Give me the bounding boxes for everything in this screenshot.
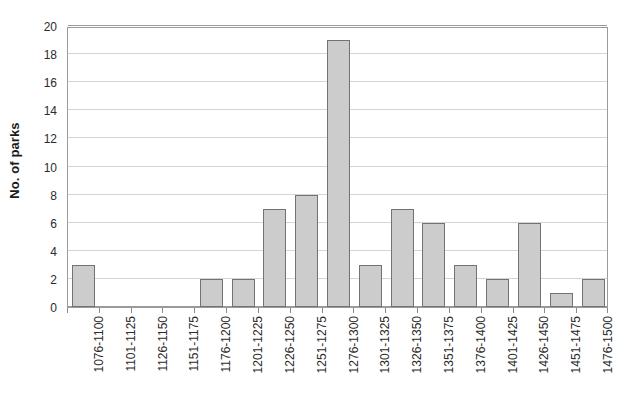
x-axis-tick-label: 1426-1450 [536,314,552,402]
x-axis-tick [449,308,450,313]
bar [327,40,350,307]
x-axis-tick [353,308,354,313]
y-axis-tick-label: 0 [50,301,57,315]
y-axis-tick-label: 4 [50,245,57,259]
bar [518,223,541,307]
x-axis-tick [194,308,195,313]
x-axis-tick [131,308,132,313]
x-axis-tick-labels: 1076-11001101-11251126-11501151-11751176… [67,314,608,402]
x-axis-tick-label: 1351-1375 [441,314,457,402]
bar [232,279,255,307]
y-axis-tick-label: 14 [44,104,57,118]
x-axis-tick [162,308,163,313]
x-axis-tick-label: 1126-1150 [155,314,171,402]
bar [550,293,573,307]
x-axis-tick [385,308,386,313]
y-axis-tick-label: 6 [50,217,57,231]
bar [391,209,414,307]
gridline [68,25,607,26]
x-axis-tick [513,308,514,313]
x-axis-tick [417,308,418,313]
x-axis-tick-label: 1076-1100 [91,314,107,402]
y-axis-tick-label: 16 [44,76,57,90]
x-axis-tick [226,308,227,313]
y-axis-title: No. of parks [0,0,28,320]
x-axis-tick-label: 1176-1200 [218,314,234,402]
x-axis-tick-label: 1326-1350 [409,314,425,402]
x-axis-tick-label: 1276-1300 [346,314,362,402]
y-axis-tick-label: 2 [50,273,57,287]
x-axis-tick-label: 1151-1175 [186,314,202,402]
bar [295,195,318,307]
x-axis-tick [258,308,259,313]
x-axis-tick-label: 1301-1325 [377,314,393,402]
x-axis-tick-label: 1251-1275 [314,314,330,402]
bar [582,279,605,307]
y-axis-tick-label: 20 [44,20,57,34]
bar [200,279,223,307]
y-axis-tick-label: 10 [44,161,57,175]
x-axis-tick [67,308,68,313]
y-axis-tick-label: 8 [50,189,57,203]
x-axis-tick-label: 1376-1400 [473,314,489,402]
bar-chart: No. of parks 02468101214161820 1076-1100… [0,0,628,402]
x-axis-tick [481,308,482,313]
plot-area [67,27,608,308]
x-axis-tick [576,308,577,313]
y-axis-tick-label: 12 [44,132,57,146]
x-axis-tick-label: 1401-1425 [505,314,521,402]
x-axis-tick-label: 1201-1225 [250,314,266,402]
x-axis-tick-label: 1226-1250 [282,314,298,402]
bar [486,279,509,307]
x-axis-tick [290,308,291,313]
x-axis-tick-label: 1101-1125 [123,314,139,402]
bars-layer [68,28,607,307]
y-axis-tick-label: 18 [44,48,57,62]
x-axis-tick [544,308,545,313]
x-axis-tick-label: 1476-1500 [600,314,616,402]
y-axis-title-label: No. of parks [7,122,22,198]
bar [72,265,95,307]
bar [359,265,382,307]
x-axis-tick-label: 1451-1475 [568,314,584,402]
bar [263,209,286,307]
x-axis-tick [99,308,100,313]
y-axis-tick-labels: 02468101214161820 [30,27,62,308]
bar [454,265,477,307]
x-axis-tick [322,308,323,313]
x-axis-tick [607,308,608,313]
bar [422,223,445,307]
